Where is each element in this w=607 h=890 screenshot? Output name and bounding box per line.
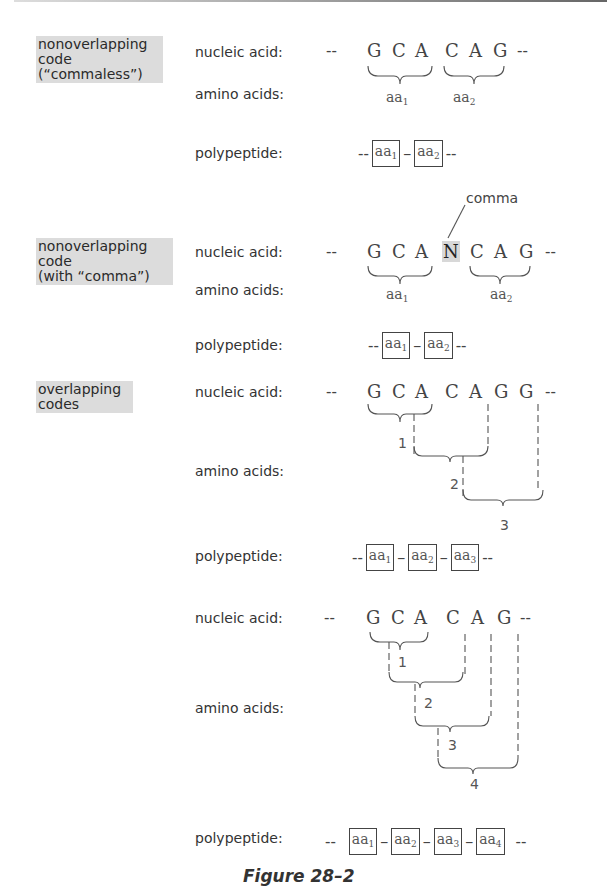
brace-icon xyxy=(370,632,428,650)
brace-icon xyxy=(368,266,432,284)
brace-icon xyxy=(463,490,543,506)
brace-icon xyxy=(414,446,488,462)
brace-icon xyxy=(368,66,432,84)
brace-icon xyxy=(415,716,489,732)
brace-icon xyxy=(389,672,463,688)
brace-icon xyxy=(444,66,504,84)
brace-icon xyxy=(438,758,518,774)
brace-icon xyxy=(368,404,432,422)
comma-leader-line xyxy=(448,205,465,238)
brace-diagram xyxy=(0,0,607,890)
brace-icon xyxy=(470,266,530,284)
